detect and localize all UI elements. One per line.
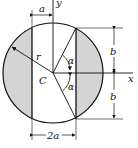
left-shaded-segment xyxy=(0,0,32,148)
shaded-segments xyxy=(0,0,138,148)
line-c-to-chord-top xyxy=(53,28,76,73)
radius-label: r xyxy=(36,51,42,62)
line-c-to-chord-bottom xyxy=(53,73,76,119)
y-axis-label: y xyxy=(55,0,62,8)
a-label: a xyxy=(39,3,45,14)
b-bottom-label: b xyxy=(110,91,116,102)
2a-label: 2a xyxy=(46,130,59,141)
angle-top-label: α xyxy=(68,56,74,66)
center-label: C xyxy=(39,75,47,86)
x-axis-label: x xyxy=(128,73,134,84)
angle-bottom-label: α xyxy=(68,82,74,92)
b-top-label: b xyxy=(110,46,116,57)
circle-diagram: y x C r a 2a b b α α xyxy=(0,0,138,148)
